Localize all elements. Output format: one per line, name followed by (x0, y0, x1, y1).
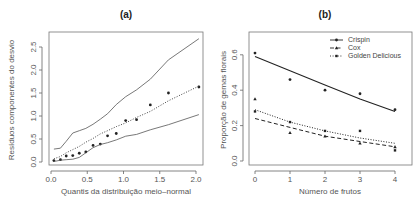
legend-label-crispin: Crispin (348, 36, 370, 44)
legend-entry-crispin: Crispin (330, 36, 370, 44)
x-tick-label: 3 (358, 175, 363, 184)
y-tick-label: 0.6 (230, 49, 239, 61)
y-tick-label: 2.0 (29, 64, 38, 76)
panel-b-x-label: Número de frutos (299, 187, 361, 196)
legend-entry-cox: Cox (330, 44, 361, 51)
y-tick-label: 0.0 (230, 155, 239, 167)
y-tick-label: 1.5 (29, 87, 38, 99)
y-tick-label: 0.4 (230, 84, 239, 96)
legend-label-golden-delicious: Golden Delicious (348, 52, 401, 59)
y-tick-label: 0.0 (29, 156, 38, 168)
panel-b-y-axis: 0.00.20.40.6 (230, 49, 243, 167)
x-tick-label: 0 (253, 175, 258, 184)
panel-a-series (53, 39, 201, 162)
legend-label-cox: Cox (348, 44, 361, 51)
y-tick-label: 2.5 (29, 41, 38, 53)
panel-a-x-axis: 0.00.51.01.52.0 (45, 171, 202, 184)
panel-a: (a) 0.00.51.01.52.0 0.00.51.01.52.02.5 Q… (7, 9, 203, 196)
panel-a-y-axis: 0.00.51.01.52.02.5 (29, 41, 42, 168)
panel-a-title: (a) (120, 9, 132, 20)
x-tick-label: 4 (393, 175, 398, 184)
y-tick-label: 0.2 (230, 119, 239, 131)
figure-canvas: (a) 0.00.51.01.52.0 0.00.51.01.52.02.5 Q… (0, 0, 418, 205)
x-tick-label: 2 (323, 175, 328, 184)
panel-b: (b) 01234 0.00.20.40.6 Crispin Cox Golde… (219, 9, 412, 196)
x-tick-label: 1.5 (154, 175, 166, 184)
figure: (a) 0.00.51.01.52.0 0.00.51.01.52.02.5 Q… (0, 0, 418, 205)
legend-entry-golden-delicious: Golden Delicious (330, 52, 401, 59)
x-tick-label: 1.0 (118, 175, 130, 184)
x-tick-label: 0.0 (45, 175, 57, 184)
panel-b-series (253, 52, 396, 152)
panel-b-x-axis: 01234 (253, 171, 398, 184)
panel-b-y-label: Proporção de gemas florais (219, 51, 228, 149)
panel-a-x-label: Quantis da distribuição meio–normal (61, 187, 191, 196)
x-tick-label: 1 (288, 175, 293, 184)
panel-b-title: (b) (319, 9, 332, 20)
x-tick-label: 0.5 (82, 175, 94, 184)
y-tick-label: 1.0 (29, 110, 38, 122)
panel-b-legend: Crispin Cox Golden Delicious (330, 36, 401, 59)
y-tick-label: 0.5 (29, 133, 38, 145)
panel-a-y-label: Resíduos componentes do desvio (7, 39, 16, 160)
x-tick-label: 2.0 (190, 175, 202, 184)
